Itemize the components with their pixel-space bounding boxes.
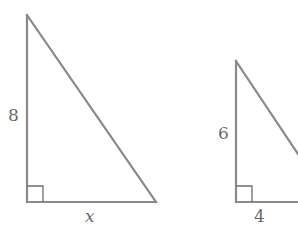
triangle-right: 6 4 bbox=[218, 61, 298, 226]
triangle-right-hypotenuse bbox=[236, 61, 298, 202]
triangles-figure: 8 x 6 4 bbox=[0, 0, 298, 228]
triangle-left-right-angle-marker bbox=[27, 186, 43, 202]
triangle-right-right-angle-marker bbox=[236, 186, 252, 202]
triangle-left-vertical-label: 8 bbox=[8, 105, 19, 125]
triangle-right-horizontal-label: 4 bbox=[254, 206, 265, 226]
triangle-left-hypotenuse bbox=[27, 15, 156, 202]
triangle-left-horizontal-label: x bbox=[85, 206, 95, 226]
triangle-left: 8 x bbox=[8, 15, 156, 226]
triangle-right-vertical-label: 6 bbox=[218, 123, 229, 143]
